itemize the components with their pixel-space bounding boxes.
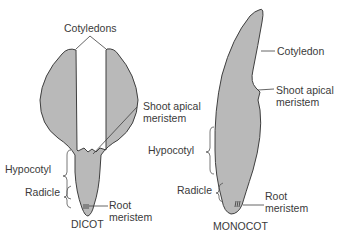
monocot-radicle-label: Radicle <box>177 184 212 196</box>
monocot-cotyledon-label: Cotyledon <box>277 45 324 57</box>
monocot-root-line1: Root <box>265 190 308 202</box>
dicot-shoot-apical-label: Shoot apical meristem <box>143 100 201 124</box>
dicot-shoot-apical-line1: Shoot apical <box>143 100 201 112</box>
dicot-root-meristem-label: Root meristem <box>109 199 152 223</box>
monocot-root-meristem-label: Root meristem <box>265 190 308 214</box>
monocot-shoot-apical-line2: meristem <box>276 96 334 108</box>
dicot-shoot-apical-line2: meristem <box>143 112 201 124</box>
monocot-shoot-apical-line1: Shoot apical <box>276 84 334 96</box>
monocot-embryo <box>206 9 275 214</box>
dicot-radicle-label: Radicle <box>25 186 60 198</box>
monocot-title: MONOCOT <box>213 220 268 232</box>
dicot-cotyledons-label: Cotyledons <box>64 22 117 34</box>
dicot-title: DICOT <box>71 218 104 230</box>
monocot-hypocotyl-brace <box>206 127 214 174</box>
monocot-root-line2: meristem <box>265 202 308 214</box>
dicot-root-line2: meristem <box>109 211 152 223</box>
dicot-hypocotyl-label: Hypocotyl <box>5 163 51 175</box>
dicot-root-line1: Root <box>109 199 152 211</box>
monocot-shoot-apical-leader <box>258 89 274 90</box>
dicot-cotyledons-leader <box>76 36 106 49</box>
monocot-shoot-apical-label: Shoot apical meristem <box>276 84 334 108</box>
monocot-hypocotyl-label: Hypocotyl <box>148 144 194 156</box>
